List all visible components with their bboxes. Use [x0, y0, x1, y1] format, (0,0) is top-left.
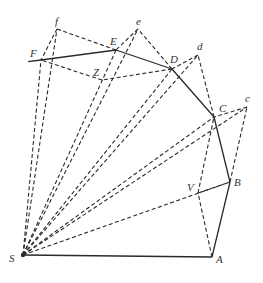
segment-CD	[172, 69, 214, 117]
dashed-construction-lines	[23, 29, 247, 257]
segment-fF	[41, 29, 57, 60]
segment-Sf	[23, 29, 57, 255]
label-B: B	[234, 176, 241, 188]
segment-eE	[116, 29, 138, 50]
label-e: e	[136, 15, 141, 27]
line-ef-extension	[28, 60, 41, 62]
label-C: C	[219, 102, 227, 114]
label-D: D	[169, 53, 178, 65]
segment-Ef	[57, 29, 116, 50]
label-c: c	[245, 92, 250, 104]
geometry-diagram: S A B V C c D d E e Z F f	[0, 0, 263, 283]
label-F: F	[29, 47, 37, 59]
segment-DZ	[102, 69, 172, 80]
segment-AB	[212, 182, 230, 257]
segment-BC	[214, 117, 230, 182]
label-d: d	[197, 40, 203, 52]
label-V: V	[187, 181, 195, 193]
vertex-markers	[21, 253, 25, 257]
segment-SD	[23, 69, 172, 255]
segment-EF	[41, 50, 116, 60]
segment-VC	[198, 117, 214, 193]
segment-SC	[23, 117, 214, 255]
segment-Sd	[23, 55, 198, 255]
center-point-S	[21, 253, 25, 257]
segment-DE	[116, 50, 172, 69]
segment-AV	[198, 193, 212, 257]
segment-Bc	[230, 107, 247, 182]
label-A: A	[215, 253, 223, 265]
label-E: E	[109, 35, 117, 47]
label-S: S	[9, 252, 15, 264]
label-f: f	[55, 15, 60, 27]
segment-SA	[23, 255, 212, 257]
solid-polygon-edges	[23, 50, 230, 257]
label-Z: Z	[93, 66, 100, 78]
